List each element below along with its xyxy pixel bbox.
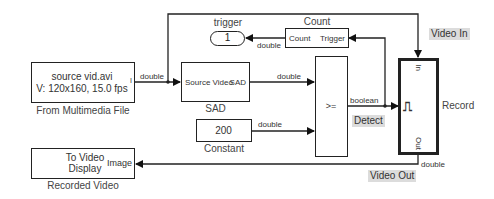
multimedia-file-line2: V: 120x160, 15.0 fps bbox=[32, 83, 132, 94]
relational-operator-block[interactable]: >= bbox=[315, 56, 348, 157]
count-block[interactable]: Count Trigger bbox=[285, 28, 349, 48]
count-block-title: Count bbox=[285, 16, 349, 28]
video-display-line1: To Video bbox=[60, 152, 110, 163]
count-input-port-label: Trigger bbox=[320, 33, 345, 44]
count-to-trigger-signal-label: double bbox=[257, 41, 281, 50]
multimedia-file-name: From Multimedia File bbox=[31, 105, 135, 117]
sad-output-port-label: SAD bbox=[230, 77, 246, 88]
const-to-compare-signal-label: double bbox=[258, 120, 282, 129]
trigger-goto-block[interactable]: 1 bbox=[210, 31, 245, 46]
record-in-port-label: In bbox=[414, 64, 423, 71]
record-trigger-icon: ⎍ bbox=[403, 100, 412, 114]
sad-input-port-label: Source Video bbox=[185, 77, 233, 88]
multimedia-file-line1: source vid.avi bbox=[32, 71, 132, 82]
to-video-display-block[interactable]: To Video Display Image bbox=[31, 148, 135, 179]
record-enabled-subsystem-block[interactable]: In ⎍ Out bbox=[398, 58, 439, 155]
trigger-goto-label: trigger bbox=[208, 17, 248, 29]
simulink-diagram-canvas: source vid.avi V: 120x160, 15.0 fps I Fr… bbox=[0, 0, 494, 199]
compare-out-signal-label: boolean bbox=[350, 96, 378, 105]
count-output-port-label: Count bbox=[289, 33, 310, 44]
video-display-port-label: Image bbox=[107, 158, 132, 169]
video-in-annotation: Video In bbox=[429, 28, 470, 40]
video-display-name: Recorded Video bbox=[31, 180, 135, 192]
constant-block[interactable]: 200 bbox=[196, 119, 252, 142]
detect-annotation: Detect bbox=[352, 115, 385, 127]
constant-value: 200 bbox=[197, 125, 250, 136]
file-to-sad-signal-label: double bbox=[140, 72, 164, 81]
sad-block-name: SAD bbox=[181, 103, 250, 115]
sad-to-compare-signal-label: double bbox=[277, 72, 301, 81]
comparator-operator: >= bbox=[316, 101, 346, 112]
sad-block[interactable]: Source Video SAD bbox=[181, 62, 250, 102]
constant-block-name: Constant bbox=[196, 143, 252, 155]
record-out-signal-label: double bbox=[421, 160, 445, 169]
video-display-line2: Display bbox=[60, 163, 110, 174]
video-out-annotation: Video Out bbox=[368, 170, 416, 182]
record-block-name: Record bbox=[442, 100, 474, 112]
multimedia-file-port-mark: I bbox=[130, 75, 132, 86]
from-multimedia-file-block[interactable]: source vid.avi V: 120x160, 15.0 fps I bbox=[31, 62, 135, 103]
record-out-port-label: Out bbox=[414, 137, 423, 150]
